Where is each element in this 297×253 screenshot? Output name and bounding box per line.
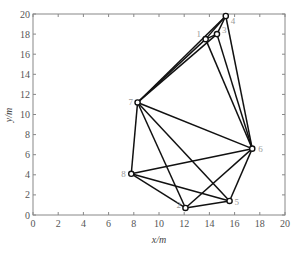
y-tick-label: 18 (20, 29, 30, 40)
y-axis-label: y/m (3, 108, 14, 123)
y-tick-label: 6 (25, 149, 30, 160)
node-label: 2 (176, 200, 181, 210)
x-tick-label: 8 (131, 218, 136, 229)
x-tick-label: 20 (280, 218, 290, 229)
graph-node-marker (227, 198, 232, 203)
x-tick-label: 4 (81, 218, 86, 229)
graph-node-marker (183, 205, 188, 210)
x-axis-label: x/m (151, 234, 166, 245)
graph-edge (131, 102, 137, 173)
node-label: 4 (231, 16, 236, 26)
graph-node-marker (214, 31, 219, 36)
y-tick-label: 20 (20, 9, 30, 20)
graph-node-marker (203, 37, 208, 42)
graph-node-marker (250, 146, 255, 151)
node-label: 5 (235, 197, 240, 207)
graph-edge (138, 34, 217, 102)
y-tick-label: 16 (20, 49, 30, 60)
graph-edges (131, 16, 252, 208)
y-tick-label: 14 (20, 69, 30, 80)
x-tick-label: 2 (56, 218, 61, 229)
y-tick-label: 2 (25, 189, 30, 200)
x-tick-label: 0 (31, 218, 36, 229)
y-tick-label: 10 (20, 109, 30, 120)
graph-node-marker (129, 171, 134, 176)
network-chart: 0246810121416182002468101214161820 12345… (0, 0, 297, 253)
y-tick-label: 4 (25, 169, 30, 180)
axis-ticks: 0246810121416182002468101214161820 (20, 9, 290, 230)
plot-frame (33, 14, 285, 215)
node-label: 3 (222, 25, 227, 35)
x-tick-label: 12 (179, 218, 189, 229)
y-tick-label: 0 (25, 210, 30, 221)
node-label: 7 (129, 97, 134, 107)
node-label: 6 (258, 144, 263, 154)
node-label: 1 (197, 29, 202, 39)
graph-node-marker (135, 100, 140, 105)
graph-edge (217, 34, 252, 149)
x-tick-label: 18 (255, 218, 265, 229)
y-tick-label: 8 (25, 129, 30, 140)
graph-edge (226, 16, 252, 149)
graph-node-marker (223, 13, 228, 18)
y-tick-label: 12 (20, 89, 30, 100)
graph-edge (131, 149, 252, 174)
node-label: 8 (121, 169, 126, 179)
graph-edge (185, 149, 252, 208)
graph-edge (230, 149, 253, 201)
x-tick-label: 14 (204, 218, 214, 229)
x-tick-label: 16 (230, 218, 240, 229)
x-tick-label: 6 (106, 218, 111, 229)
x-tick-label: 10 (154, 218, 164, 229)
